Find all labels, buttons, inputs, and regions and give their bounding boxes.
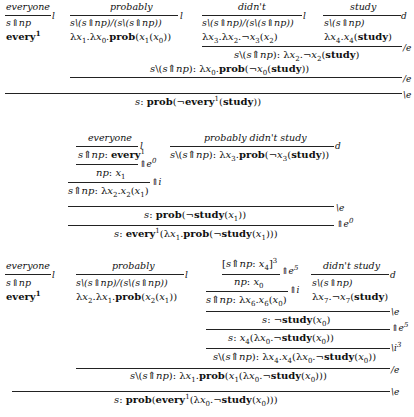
rule-label: \e (336, 203, 344, 213)
rule-label: \i3 (391, 343, 401, 353)
step-result: s\(s⇑np): λx1.prob(x1(λx0.¬study(x0))) (130, 370, 327, 382)
step-result: s\(s⇑np): λx2.¬x2(study) (234, 49, 360, 61)
rule-label: \e (403, 90, 411, 100)
word-everyone: everyone (6, 260, 50, 272)
type: s\(s⇑np)/(s\(s⇑np)) (202, 17, 294, 29)
rule-label: l (185, 270, 188, 280)
type: s\(s⇑np)/(s\(s⇑np)) (70, 17, 162, 29)
type: s\(s⇑np) (312, 277, 353, 289)
type: s\(s⇑np) (324, 17, 365, 29)
type: s⇑np (6, 17, 31, 29)
word-probably: probably (112, 260, 155, 272)
step-result: s: ¬study(x0) (262, 314, 330, 326)
word-didnt: didn't (238, 1, 266, 13)
rule-label: d (335, 141, 341, 151)
type: s\(s⇑np)/(s\(s⇑np)) (76, 277, 168, 289)
step-result: s: x4(λx0.¬study(x0)) (228, 332, 334, 344)
lexical-result: s⇑np: every1 (78, 149, 145, 161)
rule-label: ⇑e0 (139, 159, 156, 169)
rule-label: l (52, 11, 55, 21)
term: λx4.x4(study) (324, 31, 392, 43)
word-everyone: everyone (88, 132, 132, 144)
rule-label: /e (403, 74, 411, 84)
step-result: np: x0 (234, 276, 264, 288)
rule-label: \e (391, 387, 399, 397)
rule-label: ⇑e5 (281, 266, 298, 276)
rule-label: l (180, 11, 183, 21)
conclusion: s: every1(λx1.prob(¬study(x1))) (114, 228, 278, 240)
rule-label: /e (403, 43, 411, 53)
term: λx7.¬x7(study) (312, 291, 388, 303)
term: every1 (6, 31, 41, 43)
rule-label: l (52, 270, 55, 280)
hypothesis: [s⇑np: x4]3 (222, 258, 277, 270)
rule-label: \e (391, 307, 399, 317)
term: λx2.λx1.prob(x2(x1)) (76, 291, 177, 303)
word-study: study (350, 1, 376, 13)
term: every1 (6, 291, 41, 303)
word-didnt-study: didn't study (323, 260, 380, 272)
rule-label: ⇑e0 (336, 219, 353, 229)
step-result: s⇑np: λx6.x6(x0) (206, 294, 287, 306)
term: λx1.λx0.prob(x1(x0)) (70, 31, 171, 43)
step-result: s\(s⇑np): λx0.prob(¬x0(study)) (150, 63, 309, 75)
rule-label: d (401, 11, 407, 21)
word-probably-didnt-study: probably didn't study (204, 132, 307, 144)
rule-label: ⇑i (289, 285, 299, 295)
rule-label: l (303, 11, 306, 21)
lexical-result: s\(s⇑np): λx3.prob(¬x3(study)) (170, 149, 329, 161)
step-result: s\(s⇑np): λx4.x4(λx0.¬study(x0)) (213, 351, 376, 363)
word-everyone: everyone (6, 1, 50, 13)
step-result: s: prob(¬study(x1)) (144, 209, 246, 221)
type: s⇑np (6, 277, 31, 289)
word-probably: probably (110, 1, 153, 13)
conclusion: s: prob(¬every1(study)) (135, 96, 261, 108)
rule-label: /e (391, 365, 399, 375)
rule-label: ⇑e5 (391, 323, 408, 333)
step-result: np: x1 (96, 167, 126, 179)
step-result: s⇑np: λx2.x2(x1) (68, 185, 149, 197)
conclusion: s: prob(every1(λx0.¬study(x0))) (114, 394, 278, 406)
rule-label: ⇑i (151, 177, 161, 187)
term: λx3.λx2.¬x3(x2) (202, 31, 278, 43)
rule-label: d (390, 270, 396, 280)
